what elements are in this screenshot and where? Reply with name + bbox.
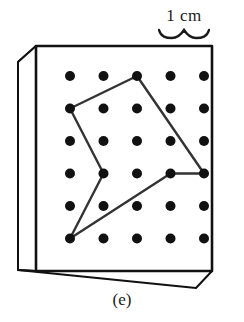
lattice-dot xyxy=(199,169,209,179)
geoboard-figure: 1 cm (e) xyxy=(0,0,244,322)
lattice-dot xyxy=(199,234,209,244)
box-bottom-face xyxy=(18,270,212,288)
lattice-dot xyxy=(132,234,142,244)
lattice-dot xyxy=(99,71,109,81)
lattice-dot xyxy=(199,136,209,146)
lattice-dot xyxy=(166,104,176,114)
lattice-dot xyxy=(132,136,142,146)
lattice-dot xyxy=(199,104,209,114)
lattice-dot xyxy=(199,71,209,81)
lattice-dot xyxy=(65,201,75,211)
lattice-dot xyxy=(99,136,109,146)
lattice-dot xyxy=(65,104,75,114)
lattice-dot xyxy=(166,71,176,81)
box-left-face xyxy=(18,46,36,271)
figure-caption: (e) xyxy=(0,290,244,310)
lattice-dot xyxy=(166,234,176,244)
geoboard-box xyxy=(0,0,244,322)
box-front-face xyxy=(36,46,212,271)
lattice-dot xyxy=(132,71,142,81)
lattice-dot xyxy=(132,169,142,179)
lattice-dot xyxy=(199,201,209,211)
lattice-dot xyxy=(99,169,109,179)
lattice-dot xyxy=(166,136,176,146)
lattice-dot xyxy=(132,104,142,114)
lattice-dot xyxy=(65,71,75,81)
lattice-dot xyxy=(166,201,176,211)
lattice-dot xyxy=(166,169,176,179)
lattice-dot xyxy=(99,104,109,114)
lattice-dot xyxy=(132,201,142,211)
lattice-dot xyxy=(65,169,75,179)
lattice-dot xyxy=(99,201,109,211)
lattice-dot xyxy=(65,136,75,146)
lattice-dot xyxy=(99,234,109,244)
lattice-dot xyxy=(65,234,75,244)
